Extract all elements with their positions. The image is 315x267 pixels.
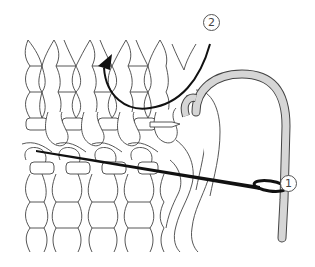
step-label-2: 2 [203, 14, 220, 31]
grafting-diagram [0, 0, 315, 267]
lower-fabric [26, 174, 165, 252]
step-label-1: 1 [280, 175, 297, 192]
upper-fabric [25, 40, 196, 118]
lower-live-loops [22, 143, 158, 174]
upper-live-loops [26, 108, 180, 146]
